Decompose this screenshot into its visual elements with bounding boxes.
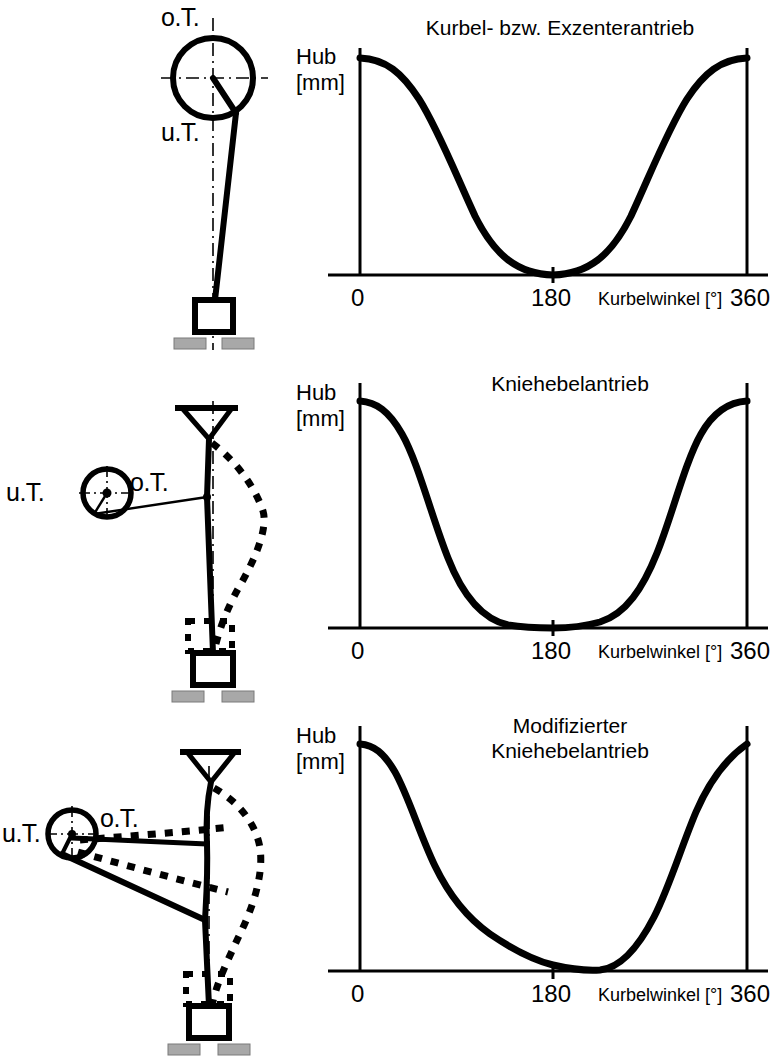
figure-row-kurbel: o.T. u.T. Kurbel- bzw. Exzenterantrieb H… [0,0,784,353]
slider-block [189,1006,229,1038]
mechanism-diagram-modifizierter-kniehebel: u.T. o.T. [0,706,300,1059]
x-tick-label-360: 360 [730,980,770,1008]
stroke-curve [360,744,747,970]
ground-pad-left [172,691,204,702]
ram-rod [205,920,209,1006]
connecting-rod [215,113,236,300]
y-axis-label-unit: [mm] [296,71,345,96]
chart-modifizierter-kniehebel: Modifizierter Kniehebelantrieb Hub [mm] … [290,706,784,1059]
x-axis-caption: Kurbelwinkel [°] [598,985,722,1006]
label-top-dead-centre: o.T. [130,470,168,495]
mechanism-svg-modifiziert [0,706,300,1059]
mechanism-svg-kurbel [0,0,300,353]
ground-pad-right [222,338,254,349]
fixed-pivot-triangle [187,752,235,782]
x-tick-label-180: 180 [531,980,571,1008]
label-top-dead-centre: o.T. [100,806,138,831]
x-tick-label-180: 180 [531,284,571,312]
slider-block [193,653,233,685]
toggle-lever-lower [207,497,213,653]
x-tick-label-360: 360 [730,284,770,312]
label-bottom-dead-centre: u.T. [161,120,199,145]
chart-title: Kurbel- bzw. Exzenterantrieb [395,16,725,41]
crank-arm [213,78,236,113]
y-axis-label-hub: Hub [296,381,336,406]
ground-pad-right [218,1044,250,1055]
ground-pad-left [174,338,206,349]
y-axis-label-unit: [mm] [296,407,345,432]
x-tick-label-360: 360 [730,637,770,665]
alternate-position-dotted [212,443,264,653]
toggle-column [205,782,211,920]
figure-row-modifizierter-kniehebel: u.T. o.T. Modifizierter Kniehebelantrieb… [0,706,784,1059]
label-top-dead-centre: o.T. [161,5,199,30]
ground-pad-right [222,691,254,702]
label-bottom-dead-centre: u.T. [6,480,44,505]
x-tick-label-0: 0 [351,284,364,312]
chart-kniehebel: Kniehebelantrieb Hub [mm] 0 180 360 Kurb… [290,353,784,706]
y-axis-label-unit: [mm] [296,750,345,775]
x-axis-caption: Kurbelwinkel [°] [598,289,722,310]
label-bottom-dead-centre: u.T. [2,821,40,846]
ground-pad-left [168,1044,200,1055]
stroke-curve [360,401,747,628]
chart-title: Kniehebelantrieb [450,372,690,397]
mechanism-diagram-kurbel: o.T. u.T. [0,0,300,353]
drive-link [94,497,207,514]
y-axis-label-hub: Hub [296,724,336,749]
chart-kurbel: Kurbel- bzw. Exzenterantrieb Hub [mm] 0 … [290,0,784,353]
x-tick-label-0: 0 [351,980,364,1008]
x-tick-label-180: 180 [531,637,571,665]
stroke-curve [360,58,747,275]
slider-block [195,300,233,332]
crank-arm [94,493,107,514]
x-tick-label-0: 0 [351,637,364,665]
chart-title: Modifizierter Kniehebelantrieb [430,714,710,764]
fixed-pivot-triangle [182,408,232,439]
figure-root: o.T. u.T. Kurbel- bzw. Exzenterantrieb H… [0,0,784,1059]
y-axis-label-hub: Hub [296,45,336,70]
knee-joint-point [203,493,211,501]
mechanism-svg-kniehebel [0,353,300,706]
mechanism-diagram-kniehebel: u.T. o.T. [0,353,300,706]
figure-row-kniehebel: u.T. o.T. Kniehebelantrieb Hub [mm] 0 18… [0,353,784,706]
toggle-lever-upper [207,439,209,497]
x-axis-caption: Kurbelwinkel [°] [598,642,722,663]
